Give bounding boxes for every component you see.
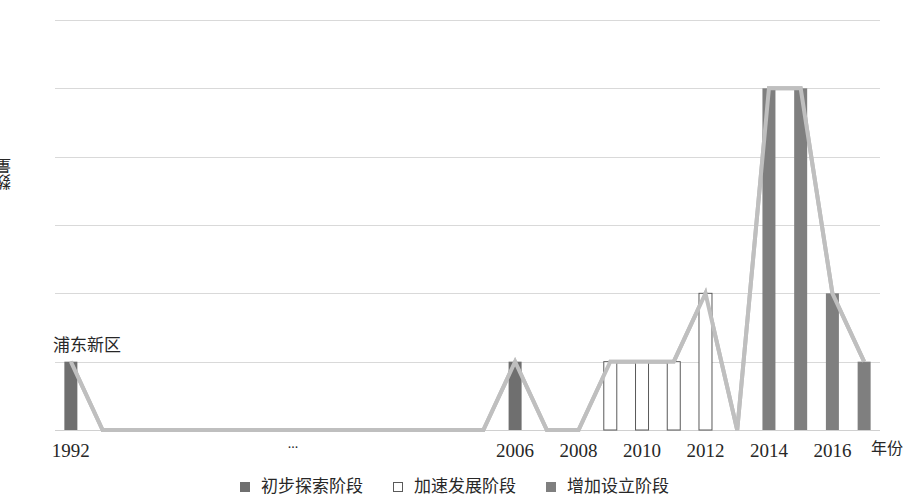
legend-item-label: 加速发展阶段 [414,478,516,495]
chart-annotation-1: 浦东新区 [53,337,121,354]
legend-item-label: 增加设立阶段 [567,478,669,495]
series-line-overlay [71,88,864,430]
x-tick-label-2014: 2014 [750,441,788,460]
filled-square-icon [240,482,250,492]
legend-item-label: 初步探索阶段 [261,478,363,495]
hollow-square-icon [393,482,403,492]
x-tick-label-2008: 2008 [560,441,598,460]
x-tick-label-2016: 2016 [813,441,851,460]
bar-2010 [636,362,649,430]
chart-root: 数量 6543210 浦东新区 1992...20062008201020122… [0,0,909,502]
data-series-layer [55,20,880,430]
series-1-bars [64,362,521,430]
y-axis-title: 数量 [0,158,18,190]
series-line-overlay [71,88,864,430]
x-tick-label-...: ... [288,437,299,451]
series-3-bars [762,88,870,430]
filled-square-icon [546,482,556,492]
x-tick-label-2010: 2010 [623,441,661,460]
bar-2017 [858,362,871,430]
x-tick-label-1992: 1992 [52,441,90,460]
chart-legend: 初步探索阶段加速发展阶段增加设立阶段 [0,478,909,495]
x-axis-title: 年份 [871,441,903,457]
legend-item-2[interactable]: 加速发展阶段 [393,478,516,495]
legend-item-1[interactable]: 初步探索阶段 [240,478,363,495]
bar-2016 [826,293,839,430]
x-tick-label-2012: 2012 [686,441,724,460]
bar-2011 [667,362,680,430]
x-tick-label-2006: 2006 [496,441,534,460]
bar-2015 [794,88,807,430]
legend-item-3[interactable]: 增加设立阶段 [546,478,669,495]
